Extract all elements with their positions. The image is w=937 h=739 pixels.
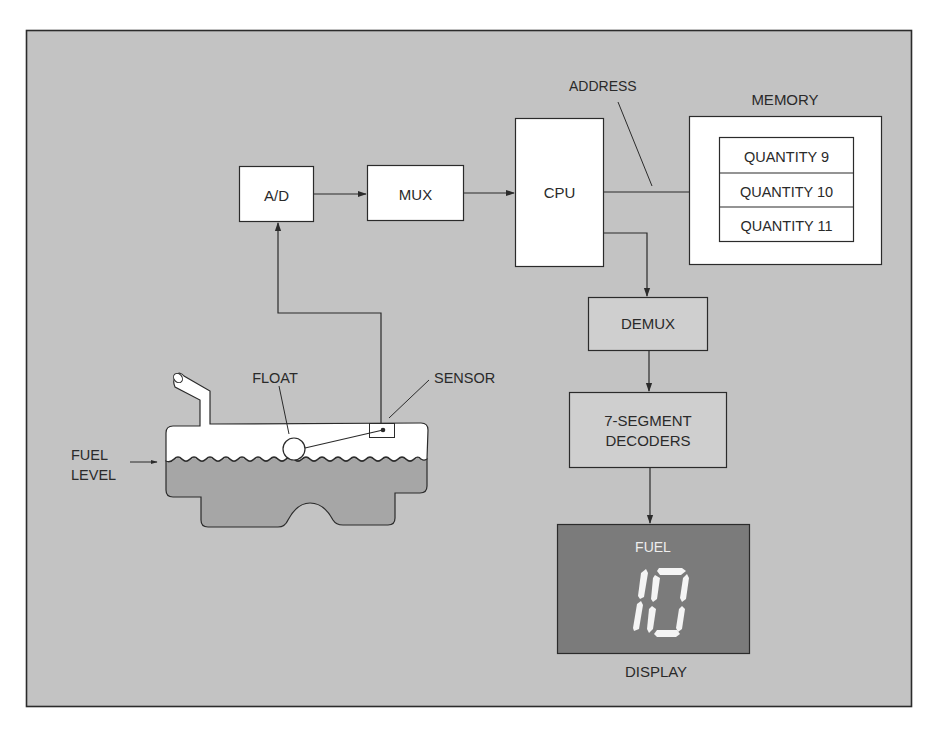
display-caption: DISPLAY xyxy=(625,663,687,680)
mux-label: MUX xyxy=(399,186,432,203)
memory-title: MEMORY xyxy=(751,91,818,108)
fuel-gauge-block-diagram: A/D MUX CPU ADDRESS MEMORY QUANTITY 9 QU… xyxy=(0,0,937,739)
memory-row-quantity-11: QUANTITY 11 xyxy=(740,218,832,234)
float-label: FLOAT xyxy=(252,370,298,386)
cpu-block: CPU xyxy=(516,119,604,267)
memory-row-quantity-10: QUANTITY 10 xyxy=(740,184,833,200)
demux-label: DEMUX xyxy=(621,315,675,332)
memory-block: QUANTITY 9 QUANTITY 10 QUANTITY 11 xyxy=(690,117,882,265)
seven-segment-decoders-block: 7-SEGMENT DECODERS xyxy=(570,393,727,468)
fuel-level-label-line1: FUEL xyxy=(71,447,108,463)
float-ball xyxy=(283,438,305,460)
ad-converter-label: A/D xyxy=(264,187,289,204)
display-heading: FUEL xyxy=(635,539,671,555)
demux-block: DEMUX xyxy=(589,298,708,351)
cpu-label: CPU xyxy=(544,184,576,201)
decoders-label-line2: DECODERS xyxy=(605,432,690,449)
decoders-label-line1: 7-SEGMENT xyxy=(604,412,692,429)
fuel-display: FUEL xyxy=(558,525,750,654)
memory-row-quantity-9: QUANTITY 9 xyxy=(744,149,829,165)
ad-converter-block: A/D xyxy=(240,167,314,222)
fuel-level-label-line2: LEVEL xyxy=(71,467,116,483)
sensor-label: SENSOR xyxy=(434,370,495,386)
mux-block: MUX xyxy=(368,166,464,221)
address-label: ADDRESS xyxy=(569,78,637,94)
